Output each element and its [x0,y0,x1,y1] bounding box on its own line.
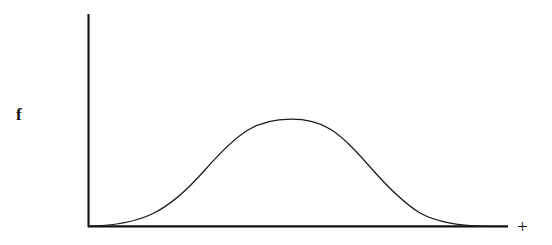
bell-curve-plot [0,0,552,245]
x-axis-label: + [517,217,528,236]
y-axis-label: f [16,106,22,123]
figure-container: f + [0,0,552,245]
plot-background [0,0,552,245]
